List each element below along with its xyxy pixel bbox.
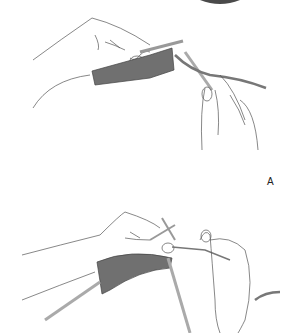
top-panel [33, 18, 266, 150]
knitting-illustration [0, 0, 298, 333]
bottom-panel [22, 212, 280, 333]
figure-label: A [267, 176, 274, 187]
yarn-ball-edge [200, 0, 240, 4]
